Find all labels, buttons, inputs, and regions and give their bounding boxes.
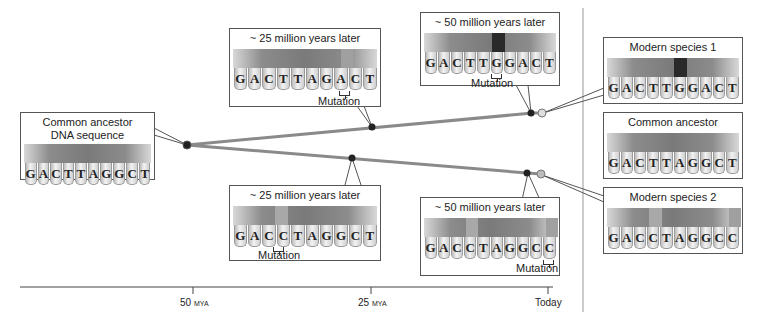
nucleotide: T [477, 52, 489, 74]
species-title: Modern species 2 [604, 188, 742, 204]
nucleotide: C [634, 77, 646, 99]
ancestor-sequence-box: Common ancestorDNA sequence GACTTAGGCT [20, 112, 155, 180]
nucleotide: A [621, 77, 633, 99]
nucleotide: G [517, 237, 529, 259]
nucleotide: G [608, 77, 620, 99]
nucleotide: C [726, 227, 738, 249]
nucleotide: G [234, 225, 247, 247]
nucleotide: C [50, 163, 62, 185]
nucleotide: T [63, 163, 75, 185]
nucleotide: A [674, 152, 686, 174]
mutation-label: Mutation [258, 249, 300, 261]
dna-bases: GACCTAGGCC [424, 237, 556, 261]
nucleotide: A [491, 237, 503, 259]
nucleotide: T [726, 77, 738, 99]
nucleotide: A [88, 163, 100, 185]
dna-strip [24, 144, 151, 163]
nucleotide: G [687, 152, 699, 174]
nucleotide: G [504, 52, 516, 74]
nucleotide: A [248, 225, 261, 247]
nucleotide: T [291, 68, 304, 90]
nucleotide: A [621, 152, 633, 174]
nucleotide: G [674, 77, 686, 99]
nucleotide: G [700, 152, 712, 174]
nucleotide: T [277, 68, 290, 90]
branch1-25mya-box: ~ 25 million years later GACTTAGACT Muta… [229, 28, 381, 107]
dna-bases: GACCTAGGCC [607, 227, 739, 251]
nucleotide: C [647, 227, 659, 249]
species-title: Modern species 1 [604, 38, 742, 54]
nucleotide: C [543, 237, 555, 259]
axis-tick-today: Today [535, 297, 562, 308]
nucleotide: A [306, 225, 319, 247]
branch1-50mya-box: ~ 50 million years later GACTTGGACT Muta… [420, 12, 560, 86]
dna-strip [607, 58, 739, 77]
nucleotide: C [713, 152, 725, 174]
nucleotide: T [660, 227, 672, 249]
nucleotide: T [543, 52, 555, 74]
nucleotide: C [349, 225, 362, 247]
branch2-25mya-box: ~ 25 million years later GACCTAGGCT Muta… [229, 185, 381, 261]
nucleotide: A [674, 227, 686, 249]
nucleotide: G [334, 225, 347, 247]
nucleotide: C [451, 52, 463, 74]
nucleotide: C [126, 163, 138, 185]
nucleotide: T [363, 225, 376, 247]
nucleotide: C [262, 68, 275, 90]
stage-title: ~ 25 million years later [230, 186, 380, 202]
stage-title: ~ 25 million years later [230, 29, 380, 45]
nucleotide: G [608, 152, 620, 174]
nucleotide: T [660, 77, 672, 99]
dna-strip [233, 206, 377, 225]
dna-strip [607, 133, 739, 152]
nucleotide: A [38, 163, 50, 185]
dna-bases: GACTTGGACT [424, 52, 556, 76]
nucleotide: G [113, 163, 125, 185]
nucleotide: G [608, 227, 620, 249]
ancestor-title: Common ancestorDNA sequence [21, 113, 154, 142]
dna-strip [424, 218, 556, 237]
axis-tick-50mya: 50 MYA [180, 297, 209, 308]
nucleotide: T [75, 163, 87, 185]
common-ancestor-box: Common ancestor GACTTAGGCT [603, 112, 743, 179]
nucleotide: T [464, 52, 476, 74]
modern-species-1-box: Modern species 1 GACTTGGACT [603, 37, 743, 104]
nucleotide: G [687, 227, 699, 249]
nucleotide: C [713, 227, 725, 249]
nucleotide: G [320, 225, 333, 247]
nucleotide: A [334, 68, 347, 90]
nucleotide: C [464, 237, 476, 259]
nucleotide: G [320, 68, 333, 90]
nucleotide: G [700, 227, 712, 249]
nucleotide: A [438, 52, 450, 74]
nucleotide: A [517, 52, 529, 74]
nucleotide: T [139, 163, 151, 185]
stage-title: ~ 50 million years later [421, 198, 559, 214]
nucleotide: C [713, 77, 725, 99]
nucleotide: C [451, 237, 463, 259]
nucleotide: A [438, 237, 450, 259]
dna-bases: GACTTGGACT [607, 77, 739, 101]
nucleotide: A [306, 68, 319, 90]
nucleotide: C [634, 227, 646, 249]
mutation-label: Mutation [318, 95, 360, 107]
nucleotide: T [726, 152, 738, 174]
nucleotide: G [425, 237, 437, 259]
branch2-50mya-box: ~ 50 million years later GACCTAGGCC Muta… [420, 197, 560, 276]
nucleotide: C [530, 52, 542, 74]
dna-strip [424, 33, 556, 52]
stage-title: ~ 50 million years later [421, 13, 559, 29]
nucleotide: T [647, 77, 659, 99]
nucleotide: C [634, 152, 646, 174]
nucleotide: T [363, 68, 376, 90]
nucleotide: C [530, 237, 542, 259]
mutation-label: Mutation [516, 262, 558, 274]
species-title: Common ancestor [604, 113, 742, 129]
nucleotide: A [700, 77, 712, 99]
mutation-label: Mutation [471, 77, 513, 89]
nucleotide: C [349, 68, 362, 90]
axis-tick-25mya: 25 MYA [358, 297, 387, 308]
nucleotide: A [248, 68, 261, 90]
dna-bases: GACTTAGACT [233, 68, 377, 92]
dna-strip [607, 208, 739, 227]
